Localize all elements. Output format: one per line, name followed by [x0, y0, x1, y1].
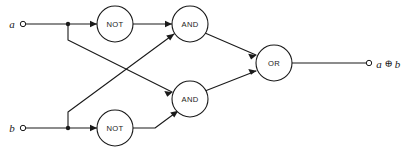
output-label-operand-right: b [395, 58, 401, 70]
arrowhead-and-top-lower-input [166, 34, 174, 41]
xor-operator-icon: ⊕ [384, 58, 392, 69]
input-terminal-a[interactable]: a [9, 18, 25, 30]
junction-dot-a [66, 22, 70, 26]
gate-or[interactable]: OR [256, 45, 292, 81]
input-label-b: b [9, 122, 15, 134]
gate-not-top-label: NOT [107, 20, 124, 29]
gate-and-bottom[interactable]: AND [172, 81, 208, 117]
gate-and-top-label: AND [182, 20, 199, 29]
junction-dot-b [66, 126, 70, 130]
input-port-b[interactable] [20, 125, 25, 130]
wire-and-bottom-to-or [205, 71, 256, 91]
input-label-a: a [9, 18, 15, 30]
output-label-operand-left: a [376, 58, 382, 70]
gate-not-top[interactable]: NOT [97, 6, 133, 42]
gate-or-label: OR [268, 59, 280, 68]
gate-not-bottom[interactable]: NOT [97, 110, 133, 146]
logic-circuit-diagram: NOT NOT AND AND OR a b [0, 0, 404, 153]
arrowhead-not-top-input [90, 21, 97, 28]
arrowhead-not-bottom-input [90, 125, 97, 132]
arrowhead-and-top-upper-input [165, 21, 172, 28]
output-port[interactable] [366, 60, 371, 65]
input-terminal-b[interactable]: b [9, 122, 25, 134]
gate-and-top[interactable]: AND [172, 6, 208, 42]
gate-not-bottom-label: NOT [107, 124, 124, 133]
input-port-a[interactable] [20, 21, 25, 26]
gate-and-bottom-label: AND [182, 95, 199, 104]
output-terminal[interactable]: a ⊕ b [366, 58, 400, 70]
circuit-canvas: NOT NOT AND AND OR a b [0, 0, 404, 153]
wire-and-top-to-or [205, 33, 256, 55]
